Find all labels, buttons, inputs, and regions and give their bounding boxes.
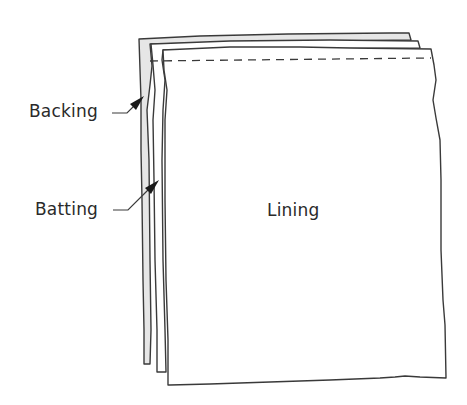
batting-arrow-icon xyxy=(113,180,159,210)
backing-arrow-icon xyxy=(112,96,144,113)
backing-label: Backing xyxy=(29,101,98,121)
lining-label: Lining xyxy=(267,200,319,220)
quilt-layers-diagram: Backing Batting Lining xyxy=(0,0,467,405)
batting-label: Batting xyxy=(35,199,98,219)
